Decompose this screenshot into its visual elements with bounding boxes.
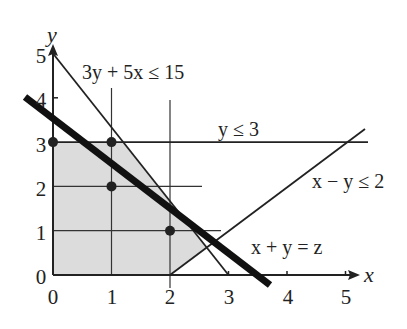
x-tick-label-5: 5 [341, 285, 352, 309]
feasible-region [53, 142, 207, 275]
integer-point-1-3 [107, 137, 117, 147]
y-axis-label: y [45, 22, 57, 47]
y-tick-label-5: 5 [36, 44, 47, 68]
x-axis-label: x [363, 262, 374, 287]
x-tick-label-1: 1 [107, 285, 118, 309]
constraint-label-y3: y ≤ 3 [218, 118, 259, 141]
integer-point-1-2 [107, 181, 117, 191]
y-tick-label-1: 1 [36, 221, 47, 245]
x-tick-label-0: 0 [48, 285, 59, 309]
objective-label: x + y = z [251, 236, 323, 259]
y-tick-label-2: 2 [36, 177, 47, 201]
y-tick-label-4: 4 [36, 88, 47, 112]
x-tick-label-3: 3 [224, 285, 235, 309]
integer-point-0-3 [48, 137, 58, 147]
constraint-label-3y5x: 3y + 5x ≤ 15 [82, 61, 184, 84]
x-tick-label-2: 2 [165, 285, 176, 309]
y-tick-label-0: 0 [36, 265, 47, 289]
x-tick-label-4: 4 [283, 285, 294, 309]
y-tick-label-3: 3 [36, 133, 47, 157]
linear-program-diagram: y x 0 1 2 3 4 5 0 1 2 3 4 5 3y + 5x ≤ 15… [0, 0, 407, 329]
integer-point-2-1 [165, 226, 175, 236]
constraint-label-xy2: x − y ≤ 2 [312, 170, 384, 193]
